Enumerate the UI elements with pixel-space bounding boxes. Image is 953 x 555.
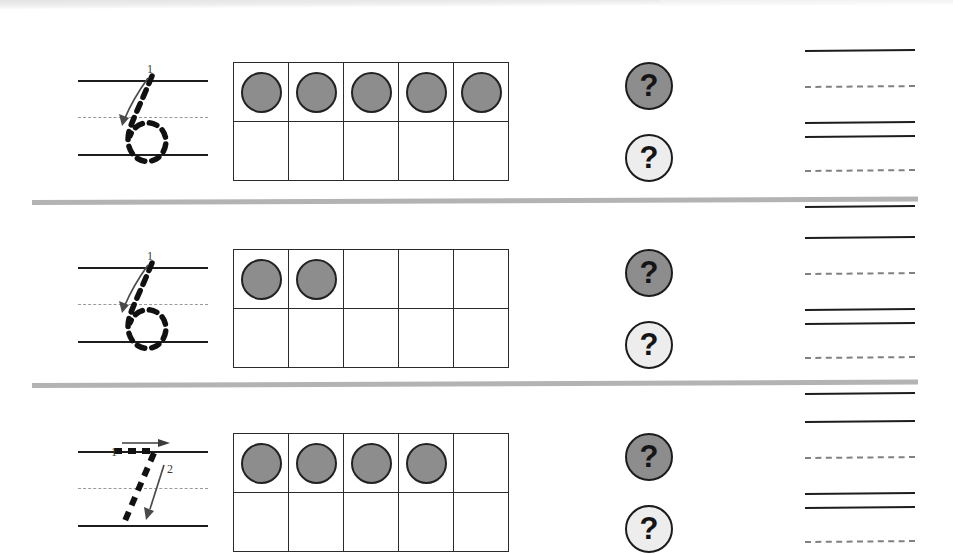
counter-dot: [296, 443, 337, 484]
counter-dot: [241, 259, 282, 300]
ten-frame-cell[interactable]: [344, 122, 399, 181]
ten-frame-cell[interactable]: [399, 63, 454, 122]
writing-line-dashed: [805, 356, 915, 359]
ten-frame-cell[interactable]: [454, 122, 509, 181]
ten-frame-cell[interactable]: [289, 309, 344, 368]
ten-frame-cell[interactable]: [344, 63, 399, 122]
ten-frame-cell[interactable]: [344, 250, 399, 309]
writing-line-solid: [805, 121, 915, 124]
stroke-order-label: 1: [147, 62, 153, 77]
ten-frame-cell[interactable]: [234, 309, 289, 368]
answer-badges: ? ?: [625, 433, 695, 555]
ten-frame-cell[interactable]: [289, 250, 344, 309]
handwriting-practice-lines[interactable]: [805, 237, 915, 377]
question-badge-dark[interactable]: ?: [625, 249, 673, 297]
writing-line-dashed: [805, 272, 915, 275]
scan-edge-band-right: [660, 0, 953, 6]
question-mark-icon: ?: [640, 513, 659, 544]
ten-frame-cell[interactable]: [289, 63, 344, 122]
ten-frame-cell[interactable]: [454, 434, 509, 493]
counter-dot: [406, 72, 447, 113]
question-mark-icon: ?: [640, 257, 659, 288]
number-tracing-guide[interactable]: 1: [78, 62, 208, 172]
dashed-numeral-6: [78, 235, 208, 363]
ten-frame-cell[interactable]: [399, 122, 454, 181]
handwriting-practice-lines[interactable]: [805, 50, 915, 190]
question-badge-light[interactable]: ?: [625, 505, 673, 553]
question-mark-icon: ?: [640, 142, 659, 173]
worksheet-row: 1 ? ?: [0, 199, 953, 384]
ten-frame-cell[interactable]: [234, 434, 289, 493]
writing-line-solid: [805, 308, 915, 311]
writing-line-dashed: [805, 85, 915, 88]
ten-frame-cell[interactable]: [399, 434, 454, 493]
counter-dot: [406, 443, 447, 484]
writing-line-dashed: [805, 169, 915, 172]
ten-frame-cell[interactable]: [289, 122, 344, 181]
ten-frame-cell[interactable]: [454, 493, 509, 552]
counter-dot: [241, 72, 282, 113]
ten-frame-cell[interactable]: [289, 493, 344, 552]
question-badge-dark[interactable]: ?: [625, 62, 673, 110]
ten-frame[interactable]: [233, 62, 509, 181]
counter-dot: [351, 443, 392, 484]
number-tracing-guide[interactable]: 1: [78, 249, 208, 359]
ten-frame-cell[interactable]: [344, 434, 399, 493]
question-mark-icon: ?: [640, 329, 659, 360]
stroke-order-label: 2: [167, 462, 173, 477]
ten-frame-cell[interactable]: [234, 493, 289, 552]
ten-frame-cell[interactable]: [234, 250, 289, 309]
writing-line-solid: [805, 49, 915, 52]
question-badge-dark[interactable]: ?: [625, 433, 673, 481]
counter-dot: [461, 72, 502, 113]
ten-frame-cell[interactable]: [399, 250, 454, 309]
question-mark-icon: ?: [640, 441, 659, 472]
answer-badges: ? ?: [625, 249, 695, 374]
answer-badges: ? ?: [625, 62, 695, 187]
stroke-order-label: 1: [111, 445, 117, 460]
ten-frame-cell[interactable]: [399, 309, 454, 368]
writing-line-solid: [805, 506, 915, 509]
ten-frame[interactable]: [233, 433, 509, 552]
worksheet-row: 1 2 ? ?: [0, 383, 953, 555]
ten-frame-cell[interactable]: [399, 493, 454, 552]
worksheet-row: 1 ? ?: [0, 12, 953, 197]
counter-dot: [241, 443, 282, 484]
question-badge-light[interactable]: ?: [625, 134, 673, 182]
writing-line-solid: [805, 322, 915, 325]
handwriting-practice-lines[interactable]: [805, 421, 915, 555]
scan-edge-band: [0, 0, 690, 9]
writing-line-solid: [805, 420, 915, 423]
counter-dot: [351, 72, 392, 113]
counter-dot: [296, 72, 337, 113]
writing-line-solid: [805, 236, 915, 239]
ten-frame-cell[interactable]: [454, 63, 509, 122]
number-tracing-guide[interactable]: 1 2: [78, 433, 208, 543]
writing-line-solid: [805, 135, 915, 138]
dashed-numeral-6: [78, 48, 208, 176]
stroke-order-label: 1: [147, 249, 153, 264]
ten-frame-cell[interactable]: [234, 122, 289, 181]
ten-frame-cell[interactable]: [289, 434, 344, 493]
writing-line-solid: [805, 492, 915, 495]
writing-line-dashed: [805, 540, 915, 543]
ten-frame-cell[interactable]: [344, 493, 399, 552]
ten-frame-cell[interactable]: [454, 309, 509, 368]
question-badge-light[interactable]: ?: [625, 321, 673, 369]
ten-frame[interactable]: [233, 249, 509, 368]
writing-line-dashed: [805, 456, 915, 459]
ten-frame-cell[interactable]: [454, 250, 509, 309]
ten-frame-cell[interactable]: [344, 309, 399, 368]
dashed-numeral-7: [78, 419, 208, 547]
worksheet-page: 1 ? ?: [0, 0, 953, 555]
counter-dot: [296, 259, 337, 300]
question-mark-icon: ?: [640, 70, 659, 101]
ten-frame-cell[interactable]: [234, 63, 289, 122]
